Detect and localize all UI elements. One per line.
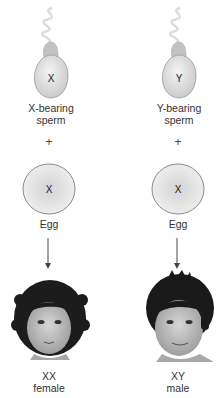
male-offspring-label: XY male: [138, 370, 218, 394]
x-sperm-label: X-bearing sperm: [11, 102, 91, 126]
y-sperm-label-line2: sperm: [139, 114, 219, 126]
svg-text:X: X: [175, 184, 182, 195]
x-sperm-label-line1: X-bearing: [11, 102, 91, 114]
svg-text:X: X: [48, 73, 55, 84]
svg-text:Y: Y: [176, 73, 183, 84]
left-egg-icon: X: [23, 164, 75, 214]
y-sperm-label: Y-bearing sperm: [139, 102, 219, 126]
left-egg-label: Egg: [9, 218, 89, 230]
female-child-image: [11, 280, 90, 360]
male-sex-label: male: [138, 382, 218, 394]
right-egg-label: Egg: [138, 218, 218, 230]
left-plus-sign: +: [39, 135, 59, 149]
right-plus-sign: +: [168, 135, 188, 149]
male-child-image: [146, 270, 214, 362]
diagram-canvas: X Y X X: [0, 0, 222, 398]
female-genotype: XX: [9, 370, 89, 382]
right-egg-icon: X: [152, 164, 204, 214]
svg-text:X: X: [46, 184, 53, 195]
female-sex-label: female: [9, 382, 89, 394]
x-sperm-label-line2: sperm: [11, 114, 91, 126]
y-sperm-label-line1: Y-bearing: [139, 102, 219, 114]
x-sperm-icon: X: [34, 8, 68, 98]
female-offspring-label: XX female: [9, 370, 89, 394]
left-arrow-icon: [45, 238, 51, 269]
right-arrow-icon: [174, 238, 180, 269]
y-sperm-icon: Y: [162, 8, 196, 98]
male-genotype: XY: [138, 370, 218, 382]
